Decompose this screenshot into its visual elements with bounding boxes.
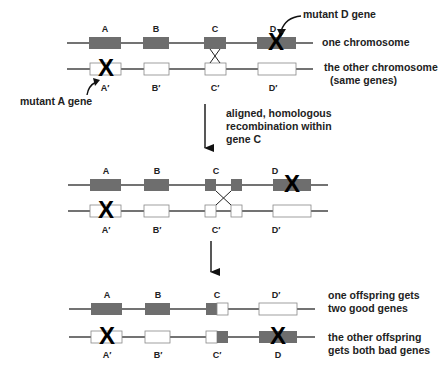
recombination-text-2: recombination within xyxy=(226,120,332,133)
label-b: B xyxy=(153,24,160,34)
mutation-x-a-3: X xyxy=(99,324,115,348)
gene-a xyxy=(89,37,121,49)
mutant-d-arrow xyxy=(281,16,301,31)
label-d-prime: D′ xyxy=(272,290,281,300)
mutant-a-gene-label: mutant A gene xyxy=(20,95,92,108)
gene-c-right xyxy=(231,179,242,191)
label-a-prime: A′ xyxy=(102,225,111,235)
label-d: D xyxy=(272,166,279,176)
label-d-prime: D′ xyxy=(272,225,281,235)
one-chromosome-label: one chromosome xyxy=(322,36,410,49)
gene-c xyxy=(204,37,226,49)
gene-b xyxy=(145,303,170,315)
crossover-lines-1 xyxy=(210,49,220,63)
gene-c-prime-right xyxy=(231,205,242,217)
gene-d-prime xyxy=(273,205,311,217)
label-b: B xyxy=(155,290,162,300)
mutant-d-gene-label: mutant D gene xyxy=(303,8,376,21)
gene-b-prime xyxy=(144,205,169,217)
label-a: A xyxy=(102,24,109,34)
mutation-x-a-2: X xyxy=(98,198,114,222)
mutation-x-d-2: X xyxy=(284,172,300,196)
gene-c-recombined-left xyxy=(206,303,217,315)
label-b-prime: B′ xyxy=(153,225,162,235)
offspring2-text-1: the other offspring xyxy=(328,331,421,344)
gene-c-prime-recombined-right xyxy=(217,331,228,343)
gene-b xyxy=(144,179,169,191)
label-d: D xyxy=(270,24,277,34)
gene-c-left xyxy=(205,179,216,191)
label-c-prime: C′ xyxy=(212,225,221,235)
label-d: D xyxy=(275,350,282,360)
mutation-x-d-3: X xyxy=(270,324,286,348)
gene-a xyxy=(90,179,121,191)
crossover-lines-2 xyxy=(216,191,231,205)
label-b-prime: B′ xyxy=(154,350,163,360)
gene-c-prime-recombined-left xyxy=(206,331,217,343)
offspring1-text-1: one offspring gets xyxy=(328,289,420,302)
label-d-prime: D′ xyxy=(269,83,278,93)
label-c-prime: C′ xyxy=(211,83,220,93)
mutation-x-a-1: X xyxy=(98,56,114,80)
label-a-prime: A′ xyxy=(101,83,110,93)
label-a-prime: A′ xyxy=(103,350,112,360)
gene-d-prime xyxy=(258,63,296,75)
gene-b-prime xyxy=(144,63,169,75)
section3-chromosome-top xyxy=(69,303,315,315)
label-a: A xyxy=(104,290,111,300)
recombination-text-1: aligned, homologous xyxy=(226,107,332,120)
label-c: C xyxy=(213,166,220,176)
gene-c-recombined-right xyxy=(217,303,228,315)
gene-c-prime xyxy=(205,63,226,75)
recombination-text-3: gene C xyxy=(226,133,261,146)
label-c: C xyxy=(212,24,219,34)
label-c-prime: C′ xyxy=(213,350,222,360)
offspring1-text-2: two good genes xyxy=(328,302,408,315)
recombination-diagram xyxy=(0,0,446,375)
gene-d-prime xyxy=(259,303,297,315)
gene-b xyxy=(143,37,169,49)
gene-c-prime-left xyxy=(205,205,216,217)
same-genes-label: (same genes) xyxy=(330,74,397,87)
offspring2-text-2: gets both bad genes xyxy=(328,344,430,357)
other-chromosome-label: the other chromosome xyxy=(324,61,438,74)
gene-b-prime xyxy=(145,331,170,343)
label-b-prime: B′ xyxy=(152,83,161,93)
label-a: A xyxy=(103,166,110,176)
gene-a xyxy=(91,303,122,315)
label-c: C xyxy=(214,290,221,300)
label-b: B xyxy=(154,166,161,176)
